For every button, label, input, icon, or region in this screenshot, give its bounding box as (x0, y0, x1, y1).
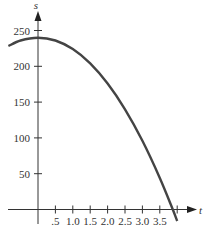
chart: .51.01.52.02.53.03.550100150200250 t s (0, 0, 207, 237)
y-axis-arrow-icon (35, 11, 42, 21)
x-tick-label: 2.5 (118, 215, 132, 227)
x-tick-label: 1.5 (83, 215, 97, 227)
y-axis-label: s (34, 0, 38, 11)
y-tick-label: 100 (14, 132, 31, 144)
x-axis-arrow-icon (187, 206, 197, 213)
x-axis-label: t (199, 204, 203, 216)
x-tick-label: 1.0 (66, 215, 80, 227)
tick-labels: .51.01.52.02.53.03.550100150200250 (14, 25, 168, 227)
x-tick-label: 3.5 (153, 215, 167, 227)
axes (8, 11, 197, 224)
y-tick-label: 50 (19, 168, 31, 180)
y-tick-label: 200 (14, 60, 31, 72)
x-tick-label: .5 (51, 215, 60, 227)
x-tick-label: 2.0 (101, 215, 115, 227)
x-tick-label: 3.0 (136, 215, 150, 227)
y-tick-label: 250 (14, 25, 31, 37)
y-tick-label: 150 (14, 96, 31, 108)
ticks (34, 31, 177, 214)
data-curve (8, 38, 177, 221)
